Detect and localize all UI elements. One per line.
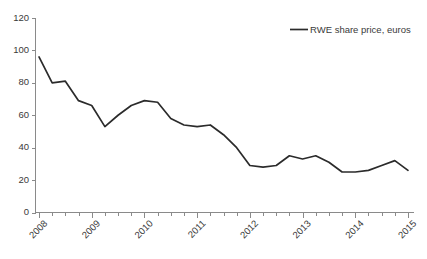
y-axis-tick-labels: 020406080100120 [13, 12, 29, 218]
y-tick-label: 80 [18, 76, 29, 87]
y-axis-tick-marks [32, 19, 36, 214]
legend: RWE share price, euros [290, 24, 411, 35]
x-tick-label: 2013 [290, 218, 313, 241]
legend-label-rwe-share-price: RWE share price, euros [310, 24, 411, 35]
x-tick-label: 2015 [396, 218, 419, 241]
x-tick-label: 2009 [79, 218, 102, 241]
x-tick-label: 2011 [185, 218, 207, 240]
x-tick-label: 2010 [132, 218, 155, 241]
y-tick-label: 40 [18, 141, 29, 152]
x-tick-label: 2014 [343, 218, 366, 241]
x-tick-label: 2012 [238, 218, 261, 241]
x-axis-tick-marks [40, 213, 409, 218]
line-chart: 020406080100120 200820092010201120122013… [0, 0, 427, 259]
series-line-rwe-share-price [39, 57, 408, 172]
y-tick-label: 100 [13, 44, 29, 55]
y-tick-label: 20 [18, 174, 29, 185]
x-tick-label: 2008 [27, 218, 50, 241]
chart-container: 020406080100120 200820092010201120122013… [0, 0, 427, 259]
y-tick-label: 120 [13, 12, 29, 23]
x-axis-tick-labels: 20082009201020112012201320142015 [27, 218, 419, 241]
y-tick-label: 0 [24, 206, 29, 217]
y-tick-label: 60 [18, 109, 29, 120]
